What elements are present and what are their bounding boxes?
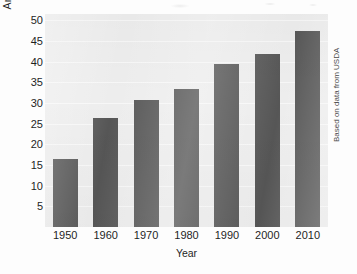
x-axis-tick-label: 1950 <box>53 229 77 241</box>
scan-artifact <box>150 0 357 14</box>
bar <box>93 118 118 227</box>
bar <box>214 64 239 227</box>
x-axis-tick-label: 1960 <box>93 229 117 241</box>
bar <box>53 159 78 227</box>
y-axis-tick-label: 10 <box>31 180 43 192</box>
x-axis-tick-label: 2000 <box>255 229 279 241</box>
y-axis-tick-label: 45 <box>31 35 43 47</box>
y-axis-tick-label: 20 <box>31 138 43 150</box>
x-axis-title: Year <box>45 247 328 259</box>
x-axis-tick-labels: 1950196019701980199020002010 <box>45 229 328 245</box>
bar <box>134 100 159 227</box>
bar <box>174 89 199 227</box>
bar-chart-figure: Annual yield (bushels per acre) 51015202… <box>0 0 357 274</box>
y-axis-tick-label: 35 <box>31 76 43 88</box>
y-axis-title: Annual yield (bushels per acre) <box>0 0 14 42</box>
x-axis-tick-label: 2010 <box>296 229 320 241</box>
source-note: Based on data from USDA <box>331 34 343 142</box>
y-axis-tick-label: 5 <box>37 200 43 212</box>
x-axis-tick-label: 1990 <box>215 229 239 241</box>
y-axis-tick-label: 50 <box>31 14 43 26</box>
plot-area <box>45 14 328 227</box>
bar <box>255 54 280 227</box>
bar <box>295 31 320 227</box>
y-axis-tick-label: 40 <box>31 56 43 68</box>
x-axis-tick-label: 1980 <box>174 229 198 241</box>
x-axis-tick-label: 1970 <box>134 229 158 241</box>
bar-series <box>45 14 328 227</box>
y-axis-tick-label: 15 <box>31 159 43 171</box>
y-axis-tick-label: 25 <box>31 118 43 130</box>
y-axis-tick-label: 30 <box>31 97 43 109</box>
y-axis-tick-labels: 5101520253035404550 <box>22 14 43 227</box>
